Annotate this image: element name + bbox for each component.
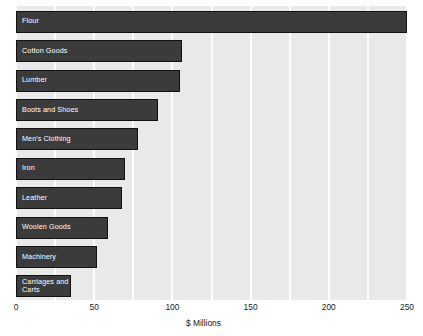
- bar[interactable]: [16, 217, 108, 239]
- x-tick-label: 250: [400, 302, 414, 312]
- bar-row[interactable]: Cotton Goods: [16, 40, 407, 62]
- bar[interactable]: [16, 70, 180, 92]
- bar[interactable]: [16, 40, 182, 62]
- x-axis-title-text: $ Millions: [186, 318, 221, 328]
- bar-row[interactable]: Carriages and Carts: [16, 275, 407, 297]
- bar-row[interactable]: Woolen Goods: [16, 217, 407, 239]
- bar[interactable]: [16, 275, 71, 297]
- x-tick-label: 200: [322, 302, 336, 312]
- bar[interactable]: [16, 11, 407, 33]
- bar-chart: FlourCotton GoodsLumberBoots and ShoesMe…: [0, 0, 423, 336]
- bar-row[interactable]: Flour: [16, 11, 407, 33]
- bar-row[interactable]: Lumber: [16, 70, 407, 92]
- x-tick-label: 0: [14, 302, 19, 312]
- x-tick-label: 50: [90, 302, 99, 312]
- x-tick-label: 100: [165, 302, 179, 312]
- bar[interactable]: [16, 99, 158, 121]
- x-axis-title: $ Millions: [0, 318, 423, 328]
- bar[interactable]: [16, 158, 125, 180]
- bar-row[interactable]: Leather: [16, 187, 407, 209]
- bar[interactable]: [16, 246, 97, 268]
- bar-row[interactable]: Men's Clothing: [16, 128, 407, 150]
- bar[interactable]: [16, 128, 138, 150]
- plot-area: FlourCotton GoodsLumberBoots and ShoesMe…: [16, 6, 407, 300]
- x-axis: 050100150200250 $ Millions: [0, 300, 423, 336]
- bar-row[interactable]: Machinery: [16, 246, 407, 268]
- x-tick-label: 150: [244, 302, 258, 312]
- bar[interactable]: [16, 187, 122, 209]
- bar-row[interactable]: Iron: [16, 158, 407, 180]
- bar-row[interactable]: Boots and Shoes: [16, 99, 407, 121]
